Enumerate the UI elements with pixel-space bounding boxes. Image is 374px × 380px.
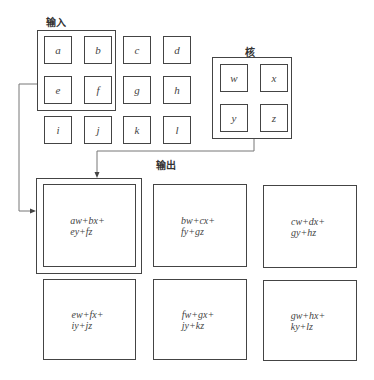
input-cell-b: b (84, 36, 112, 64)
input-cell-a: a (44, 36, 72, 64)
input-cell-l: l (163, 116, 191, 144)
output-cell-2: bw+cx+fy+gz (153, 184, 247, 267)
output-formula-line: cw+dx+ (291, 216, 325, 227)
input-cell-d: d (163, 36, 191, 64)
input-cell-j: j (84, 116, 112, 144)
output-formula-line: fw+gx+ (182, 309, 214, 320)
output-formula-line: ey+fz (70, 226, 105, 237)
output-cell-5: fw+gx+jy+kz (153, 279, 247, 360)
input-cell-g: g (123, 76, 151, 104)
input-label: 输入 (46, 14, 66, 29)
kernel-cell-y: y (220, 104, 248, 132)
output-formula-line: jy+kz (182, 320, 214, 331)
kernel-cell-w: w (220, 64, 248, 92)
kernel-cell-x: x (260, 64, 288, 92)
input-cell-f: f (84, 76, 112, 104)
input-cell-e: e (44, 76, 72, 104)
output-label: 输出 (156, 157, 176, 172)
kernel-cell-z: z (260, 104, 288, 132)
output-formula-line: gw+hx+ (291, 310, 326, 321)
input-cell-h: h (163, 76, 191, 104)
input-cell-c: c (123, 36, 151, 64)
output-cell-6: gw+hx+ky+lz (263, 280, 357, 361)
output-formula-line: aw+bx+ (70, 215, 105, 226)
output-formula-line: bw+cx+ (181, 215, 215, 226)
output-formula-line: iy+jz (72, 320, 104, 331)
output-cell-3: cw+dx+gy+hz (263, 185, 357, 268)
output-formula-line: gy+hz (291, 227, 325, 238)
output-cell-1: aw+bx+ey+fz (43, 184, 136, 267)
output-formula-line: ky+lz (291, 321, 326, 332)
output-formula-line: fy+gz (181, 226, 215, 237)
input-cell-k: k (123, 116, 151, 144)
output-formula-line: ew+fx+ (72, 309, 104, 320)
output-cell-4: ew+fx+iy+jz (43, 279, 136, 360)
input-cell-i: i (44, 116, 72, 144)
